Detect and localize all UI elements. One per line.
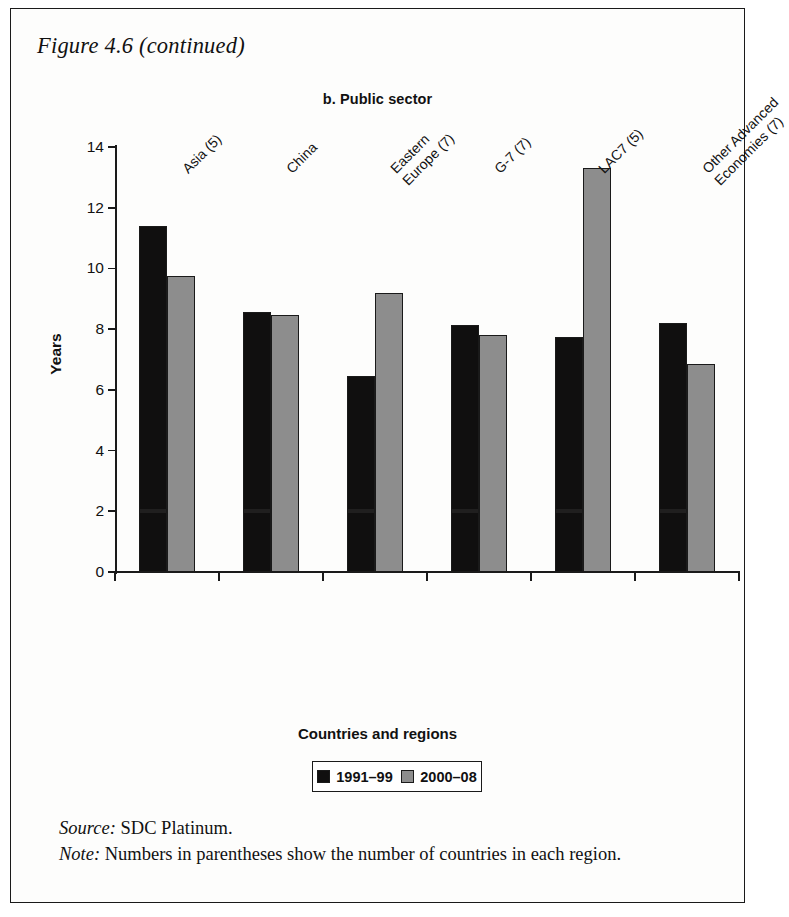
plot-area: 02468101214Asia (5)ChinaEasternEurope (7… [115, 147, 739, 572]
source-label: Source: [59, 818, 116, 838]
x-axis-tick [530, 572, 532, 581]
x-axis-tick [322, 572, 324, 581]
note-line: Note: Numbers in parentheses show the nu… [37, 841, 697, 867]
y-axis-tick-label: 8 [95, 320, 104, 338]
x-axis-category-label: Other AdvancedEconomies (7) [699, 94, 789, 188]
y-axis-tick-label: 12 [87, 199, 104, 217]
bar-1-3 [479, 335, 507, 572]
bar-0-3 [451, 325, 479, 572]
y-axis-tick-label: 6 [95, 381, 104, 399]
note-label: Note: [59, 844, 100, 864]
y-axis-tick [108, 389, 115, 391]
y-axis-tick-label: 10 [87, 259, 104, 277]
x-axis-category-label: China [283, 139, 321, 177]
x-axis-category-label: G-7 (7) [491, 134, 534, 177]
y-axis-tick [108, 207, 115, 209]
x-axis-tick [738, 572, 740, 581]
x-axis-tick [218, 572, 220, 581]
bar-0-1 [243, 312, 271, 572]
figure-title: Figure 4.6 (continued) [37, 33, 245, 59]
x-axis-category-label: LAC7 (5) [595, 125, 646, 176]
source-line: Source: SDC Platinum. [37, 815, 697, 841]
x-axis-title: Countries and regions [11, 725, 744, 742]
y-axis-title: Years [47, 333, 65, 374]
x-axis-tick [114, 572, 116, 581]
bar-1-4 [583, 168, 611, 572]
bar-0-5 [659, 323, 687, 572]
bar-1-0 [167, 276, 195, 572]
x-axis-tick [426, 572, 428, 581]
legend-label-0: 1991–99 [336, 769, 392, 785]
y-axis-tick [108, 328, 115, 330]
bar-1-1 [271, 315, 299, 572]
figure-page: Figure 4.6 (continued) b. Public sector … [10, 8, 745, 903]
panel-title: b. Public sector [11, 91, 744, 107]
figure-notes: Source: SDC Platinum. Note: Numbers in p… [37, 815, 697, 868]
y-axis-tick-label: 4 [95, 442, 104, 460]
y-axis-tick-label: 0 [95, 563, 104, 581]
bar-1-5 [687, 364, 715, 572]
x-axis-tick [634, 572, 636, 581]
chart-legend: 1991–992000–08 [312, 761, 482, 792]
bar-0-0 [139, 226, 167, 572]
legend-swatch-0 [317, 770, 330, 783]
x-axis-category-label: EasternEurope (7) [387, 118, 457, 188]
legend-item-0: 1991–99 [317, 769, 392, 785]
y-axis-tick [108, 268, 115, 270]
y-axis-tick-label: 2 [95, 502, 104, 520]
y-axis-tick-label: 14 [87, 138, 104, 156]
x-axis-category-label: Asia (5) [179, 131, 225, 177]
y-axis-tick [108, 510, 115, 512]
bar-0-4 [555, 337, 583, 572]
bar-1-2 [375, 293, 403, 572]
legend-label-1: 2000–08 [420, 769, 476, 785]
source-text: SDC Platinum. [116, 818, 233, 838]
y-axis-tick [108, 146, 115, 148]
legend-swatch-1 [401, 770, 414, 783]
bar-0-2 [347, 376, 375, 572]
y-axis-tick [108, 450, 115, 452]
note-text: Numbers in parentheses show the number o… [100, 844, 621, 864]
legend-item-1: 2000–08 [401, 769, 476, 785]
